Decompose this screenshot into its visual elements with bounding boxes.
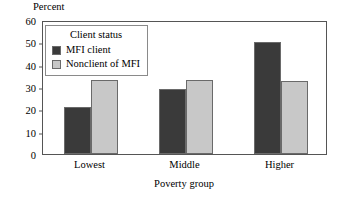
legend-swatch-nonclient: [52, 60, 61, 69]
legend-label-nonclient: Nonclient of MFI: [66, 58, 140, 70]
x-axis-title: Poverty group: [154, 178, 214, 190]
y-tick-label: 20: [0, 105, 41, 116]
bar-chart: Percent 0102030405060 LowestMiddleHigher…: [0, 0, 345, 203]
legend-item-mfi-client: MFI client: [52, 43, 140, 57]
y-tick-label: 50: [0, 38, 41, 49]
x-tick-label: Middle: [169, 159, 199, 171]
y-tick-label: 0: [0, 150, 41, 161]
bar-lowest-mfi-client: [64, 107, 91, 154]
legend-item-nonclient: Nonclient of MFI: [52, 57, 140, 71]
y-tick-label: 60: [0, 16, 41, 27]
x-tick-label: Lowest: [74, 159, 105, 171]
legend-title: Client status: [52, 29, 140, 41]
legend-swatch-mfi-client: [52, 46, 61, 55]
legend: Client status MFI client Nonclient of MF…: [45, 25, 148, 76]
y-tick-label: 30: [0, 83, 41, 94]
bar-higher-nonclient-of-mfi: [281, 81, 308, 154]
bar-higher-mfi-client: [254, 42, 281, 154]
x-tick-label: Higher: [265, 159, 294, 171]
y-axis-title: Percent: [33, 1, 65, 13]
bar-lowest-nonclient-of-mfi: [91, 80, 118, 154]
bar-middle-nonclient-of-mfi: [186, 80, 213, 154]
y-tick-label: 40: [0, 60, 41, 71]
bar-middle-mfi-client: [159, 89, 186, 154]
legend-label-mfi-client: MFI client: [66, 44, 111, 56]
y-tick-label: 10: [0, 127, 41, 138]
